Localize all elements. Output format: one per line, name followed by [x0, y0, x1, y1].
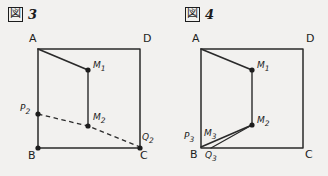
- point-label-M1: M1: [93, 61, 106, 72]
- figure-panel: 図 3 A D B C M1 M2 P2 Q2: [0, 0, 328, 176]
- vertex-label-A: A: [29, 33, 37, 44]
- point-M2-dot: [249, 122, 254, 127]
- figure-3: 図 3 A D B C M1 M2 P2 Q2: [0, 0, 164, 176]
- point-B-dot: [35, 145, 40, 150]
- segment-A-M1: [38, 49, 88, 70]
- point-label-M3: M3: [204, 129, 217, 140]
- quad-ABCD: [38, 49, 140, 148]
- point-P2-dot: [35, 111, 40, 116]
- vertex-label-C: C: [140, 150, 148, 161]
- segment-A-M1: [201, 49, 252, 70]
- vertex-label-A: A: [192, 33, 200, 44]
- point-label-P2: P2: [20, 104, 30, 115]
- vertex-label-D: D: [306, 33, 314, 44]
- point-label-M2: M2: [93, 113, 106, 124]
- point-M1-dot: [249, 67, 254, 72]
- point-label-M1: M1: [257, 61, 270, 72]
- segment-M2-Q3: [211, 125, 252, 148]
- point-M1-dot: [85, 67, 90, 72]
- point-label-P3: P3: [184, 132, 194, 143]
- vertex-label-C: C: [305, 149, 313, 160]
- vertex-label-B: B: [28, 150, 36, 161]
- vertex-label-D: D: [143, 33, 151, 44]
- vertex-label-B: B: [190, 149, 198, 160]
- figure-4: 図 4 A D B C M1 M2 P3 M3 Q3: [164, 0, 328, 176]
- segment-P2-M2-Q2-dashed: [38, 114, 140, 147]
- point-label-Q3: Q3: [205, 151, 217, 162]
- point-label-M2: M2: [257, 116, 270, 127]
- point-label-Q2: Q2: [142, 133, 154, 144]
- figure-4-drawing: [164, 0, 328, 176]
- point-M2-dot: [85, 123, 90, 128]
